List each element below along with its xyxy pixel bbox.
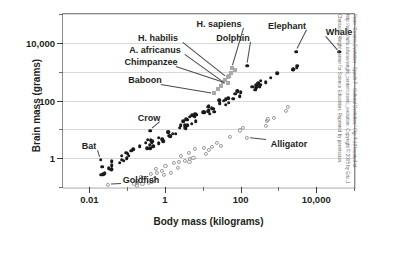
data-point-h-habilis xyxy=(226,75,230,79)
data-point-reptile xyxy=(210,145,214,149)
data-point-reptile xyxy=(219,144,223,148)
data-point-reptile xyxy=(272,116,276,120)
callout-leader-bat xyxy=(97,150,100,157)
x-tick-label: 0.01 xyxy=(80,194,99,205)
callout-label-a-africanus: A. africanus xyxy=(129,45,181,55)
data-point-mammal xyxy=(291,67,295,71)
y-tick xyxy=(57,101,63,102)
data-point-mammal xyxy=(150,139,154,143)
data-point-mammal xyxy=(269,76,273,80)
data-point-mammal xyxy=(157,136,161,140)
data-point-hominid xyxy=(216,87,220,91)
y-tick xyxy=(59,129,63,130)
data-point-reptile xyxy=(177,160,181,164)
credit-text: From “Cosmic Evolution - Epoch 7 - Cultu… xyxy=(336,14,358,186)
data-point-reptile xyxy=(193,147,197,151)
data-point-mammal xyxy=(183,126,187,130)
data-point-reptile xyxy=(171,160,175,164)
data-point-mammal xyxy=(144,141,148,145)
callout-label-h-habilis: H. habilis xyxy=(138,33,178,43)
callout-label-dolphin: Dolphin xyxy=(216,33,250,43)
data-point-mammal xyxy=(125,156,129,160)
callout-leader-alligator xyxy=(250,137,266,140)
data-point-mammal xyxy=(207,104,211,108)
data-point-mammal xyxy=(233,92,237,96)
y-gridline xyxy=(63,14,354,15)
data-point-reptile xyxy=(286,104,290,108)
data-point-mammal xyxy=(254,88,258,92)
y-tick xyxy=(59,187,63,188)
data-point-mammal xyxy=(227,101,231,105)
callout-leader-elephant xyxy=(297,30,307,49)
callout-leader-goldfish xyxy=(110,183,120,185)
y-axis-title: Brain mass (grams) xyxy=(31,26,42,186)
data-point-mammal xyxy=(194,120,198,124)
callout-label-baboon: Baboon xyxy=(128,75,162,85)
data-point-mammal xyxy=(239,91,243,95)
data-point-h-sapiens xyxy=(230,66,234,70)
x-tick xyxy=(278,187,279,191)
data-point-reptile xyxy=(266,117,270,121)
callout-label-chimpanzee: Chimpanzee xyxy=(124,57,177,67)
y-gridline xyxy=(63,187,354,188)
data-point-mammal xyxy=(264,80,268,84)
data-point-mammal xyxy=(166,130,170,134)
plot-area: 10,00010010.01110010,000H. sapiensH. hab… xyxy=(62,13,355,188)
y-gridline xyxy=(63,129,354,130)
data-point-mammal xyxy=(101,165,105,169)
data-point-mammal xyxy=(257,81,261,85)
data-point-dolphin xyxy=(246,64,250,68)
y-gridline xyxy=(63,101,354,102)
data-point-mammal xyxy=(193,113,197,117)
data-point-mammal xyxy=(231,97,235,101)
x-tick xyxy=(241,187,242,193)
data-point-mammal xyxy=(258,85,262,89)
callout-label-bat: Bat xyxy=(82,141,97,151)
data-point-chimpanzee xyxy=(226,81,230,85)
data-point-mammal xyxy=(190,113,194,117)
data-point-mammal xyxy=(222,99,226,103)
y-tick-label: 1 xyxy=(50,153,55,164)
data-point-alligator xyxy=(245,136,249,140)
data-point-mammal xyxy=(152,144,156,148)
y-gridline xyxy=(63,158,354,159)
x-tick xyxy=(89,187,90,193)
data-point-mammal xyxy=(238,94,242,98)
x-axis-title: Body mass (kilograms) xyxy=(62,216,355,227)
data-point-reptile xyxy=(187,160,191,164)
callout-label-goldfish: Goldfish xyxy=(123,175,160,185)
data-point-reptile xyxy=(169,171,173,175)
data-point-mammal xyxy=(145,147,149,151)
y-tick-label: 100 xyxy=(39,95,55,106)
data-point-mammal xyxy=(168,134,172,138)
data-point-baboon xyxy=(212,91,216,95)
y-tick xyxy=(57,158,63,159)
data-point-reptile xyxy=(163,164,167,168)
y-tick xyxy=(59,72,63,73)
data-point-mammal xyxy=(206,109,210,113)
data-point-reptile xyxy=(264,124,268,128)
x-tick xyxy=(203,187,204,191)
brain-body-mass-scatter-figure: 10,00010010.01110010,000H. sapiensH. hab… xyxy=(0,0,402,266)
data-point-mammal xyxy=(174,132,178,136)
callout-leader-dolphin xyxy=(247,42,251,63)
data-point-mammal xyxy=(161,139,165,143)
data-point-mammal xyxy=(103,172,107,176)
data-point-mammal xyxy=(157,142,161,146)
x-tick xyxy=(165,187,166,193)
callout-label-h-sapiens: H. sapiens xyxy=(196,19,241,29)
data-point-reptile xyxy=(228,135,232,139)
data-point-reptile xyxy=(238,128,242,132)
data-point-reptile xyxy=(162,173,166,177)
data-point-elephant xyxy=(295,50,299,54)
data-point-mammal xyxy=(178,126,182,130)
data-point-mammal xyxy=(120,158,124,162)
x-tick-label: 100 xyxy=(233,194,249,205)
x-tick xyxy=(316,187,317,193)
y-tick xyxy=(57,43,63,44)
data-point-bat xyxy=(99,158,103,162)
callout-leader-baboon xyxy=(161,84,212,94)
y-gridline xyxy=(63,43,354,44)
data-point-mammal xyxy=(110,167,114,171)
data-point-crow xyxy=(148,129,152,133)
